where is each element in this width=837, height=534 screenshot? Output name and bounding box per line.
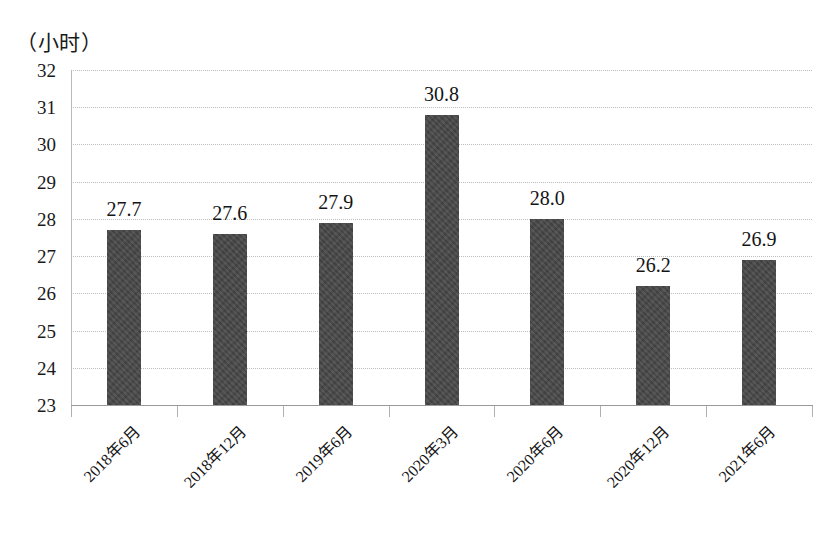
bar-value-label: 28.0 — [507, 188, 587, 208]
y-axis-tick-label: 26 — [12, 284, 56, 303]
y-axis-tick-label: 25 — [12, 322, 56, 341]
bar-value-label: 27.6 — [190, 203, 270, 223]
x-axis-category-label: 2019年6月 — [273, 423, 355, 505]
bar — [742, 260, 776, 405]
y-axis-tick-label: 30 — [12, 135, 56, 154]
y-axis-tick-label: 32 — [12, 61, 56, 80]
bar — [213, 234, 247, 405]
x-axis-category-label: 2018年6月 — [61, 423, 143, 505]
x-axis-line — [71, 405, 813, 406]
bar-value-label: 27.9 — [296, 192, 376, 212]
x-axis-tick-mark — [706, 406, 707, 417]
y-axis-line — [71, 70, 72, 406]
y-axis-tick-label: 29 — [12, 173, 56, 192]
x-axis-category-label: 2020年6月 — [485, 423, 567, 505]
x-axis-tick-mark — [177, 406, 178, 417]
x-axis-category-label: 2021年6月 — [696, 423, 778, 505]
y-axis-tick-label: 28 — [12, 210, 56, 229]
bar-value-label: 26.9 — [719, 229, 799, 249]
bar — [425, 115, 459, 405]
x-axis-tick-mark — [494, 406, 495, 417]
y-axis-tick-label: 27 — [12, 247, 56, 266]
bar — [636, 286, 670, 405]
x-axis-tick-mark — [812, 406, 813, 417]
bar-value-label: 26.2 — [613, 255, 693, 275]
gridline — [71, 107, 812, 108]
x-axis-category-label: 2020年12月 — [590, 423, 672, 505]
gridline — [71, 70, 812, 71]
y-axis-tick-label: 23 — [12, 396, 56, 415]
y-axis-tick-label: 24 — [12, 359, 56, 378]
y-axis-unit-label: （小时） — [16, 30, 102, 56]
x-axis-tick-mark — [283, 406, 284, 417]
x-axis-tick-mark — [600, 406, 601, 417]
x-axis-category-label: 2020年3月 — [379, 423, 461, 505]
bar-chart: （小时） 32313029282726252423 27.727.627.930… — [0, 0, 837, 534]
x-axis-tick-mark — [71, 406, 72, 417]
y-axis-tick-label: 31 — [12, 98, 56, 117]
bar — [530, 219, 564, 405]
x-axis-tick-mark — [389, 406, 390, 417]
x-axis-category-label: 2018年12月 — [167, 423, 249, 505]
bar — [107, 230, 141, 405]
bar-value-label: 30.8 — [402, 84, 482, 104]
bar-value-label: 27.7 — [84, 199, 164, 219]
bar — [319, 223, 353, 405]
